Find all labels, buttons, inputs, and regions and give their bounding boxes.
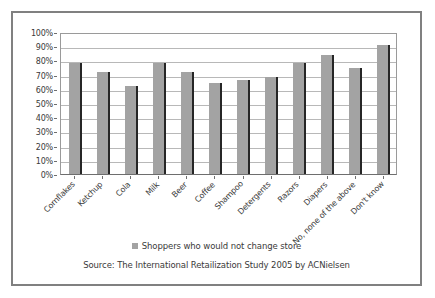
- bar: [321, 55, 334, 174]
- y-tick-mark: [54, 132, 57, 133]
- bar-slot: [153, 34, 166, 174]
- y-axis: 0%10%20%30%40%50%60%70%80%90%100%: [13, 33, 57, 175]
- y-tick-label: 80%: [36, 57, 53, 66]
- legend-swatch-icon: [132, 243, 138, 249]
- y-tick-mark: [54, 104, 57, 105]
- x-tick-mark: [214, 176, 215, 179]
- bar-slot: [209, 34, 222, 174]
- y-tick-label: 90%: [36, 43, 53, 52]
- y-tick-label: 0%: [41, 171, 53, 180]
- x-tick-label: Diapers: [302, 180, 329, 207]
- x-tick-mark: [299, 176, 300, 179]
- x-tick-label: Coffee: [193, 180, 217, 204]
- bar-slot: [181, 34, 194, 174]
- x-tick-mark: [74, 176, 75, 179]
- y-tick-label: 40%: [36, 114, 53, 123]
- bar: [69, 63, 82, 174]
- y-tick-mark: [54, 175, 57, 176]
- x-tick-mark: [355, 176, 356, 179]
- bar: [97, 72, 110, 174]
- x-tick-mark: [243, 176, 244, 179]
- x-tick-mark: [271, 176, 272, 179]
- x-tick-mark: [186, 176, 187, 179]
- y-tick-mark: [54, 90, 57, 91]
- source-note: Source: The International Retailization …: [13, 260, 420, 270]
- y-tick-mark: [54, 47, 57, 48]
- bar-slot: [97, 34, 110, 174]
- x-tick-mark: [327, 176, 328, 179]
- legend-label: Shoppers who would not change store: [142, 241, 301, 251]
- y-tick-label: 10%: [36, 156, 53, 165]
- bar: [125, 86, 138, 174]
- bar: [377, 45, 390, 174]
- bars-layer: [61, 34, 396, 174]
- x-tick-label: Razors: [276, 180, 300, 204]
- x-tick-label: Cornflakes: [42, 180, 77, 215]
- y-tick-mark: [54, 147, 57, 148]
- bar-slot: [69, 34, 82, 174]
- x-tick-label: Beer: [170, 180, 189, 199]
- y-tick-label: 30%: [36, 128, 53, 137]
- x-tick-mark: [102, 176, 103, 179]
- x-tick-mark: [383, 176, 384, 179]
- y-tick-label: 60%: [36, 85, 53, 94]
- x-tick-mark: [130, 176, 131, 179]
- x-tick-label: Cola: [114, 180, 132, 198]
- x-axis: CornflakesKetchupColaMilkBeerCoffeeShamp…: [60, 176, 397, 246]
- bar: [265, 77, 278, 174]
- bar: [237, 80, 250, 174]
- bar: [293, 63, 306, 174]
- bar-slot: [125, 34, 138, 174]
- y-tick-mark: [54, 76, 57, 77]
- y-tick-mark: [54, 161, 57, 162]
- plot-area: [60, 33, 397, 175]
- y-tick-label: 100%: [31, 29, 53, 38]
- bar: [209, 83, 222, 174]
- y-tick-mark: [54, 33, 57, 34]
- x-tick-label: Milk: [144, 180, 161, 197]
- x-tick-label: Ketchup: [76, 180, 104, 208]
- y-tick-mark: [54, 118, 57, 119]
- chart-legend: Shoppers who would not change store: [13, 241, 420, 251]
- bar: [153, 63, 166, 174]
- bar-slot: [349, 34, 362, 174]
- bar-slot: [377, 34, 390, 174]
- x-tick-mark: [158, 176, 159, 179]
- y-tick-mark: [54, 61, 57, 62]
- y-tick-label: 50%: [36, 100, 53, 109]
- bar-slot: [265, 34, 278, 174]
- chart-figure: 0%10%20%30%40%50%60%70%80%90%100% Cornfl…: [11, 11, 422, 286]
- y-tick-label: 20%: [36, 142, 53, 151]
- bar-slot: [293, 34, 306, 174]
- bar: [349, 68, 362, 175]
- bar: [181, 72, 194, 174]
- y-tick-label: 70%: [36, 71, 53, 80]
- bar-slot: [237, 34, 250, 174]
- bar-slot: [321, 34, 334, 174]
